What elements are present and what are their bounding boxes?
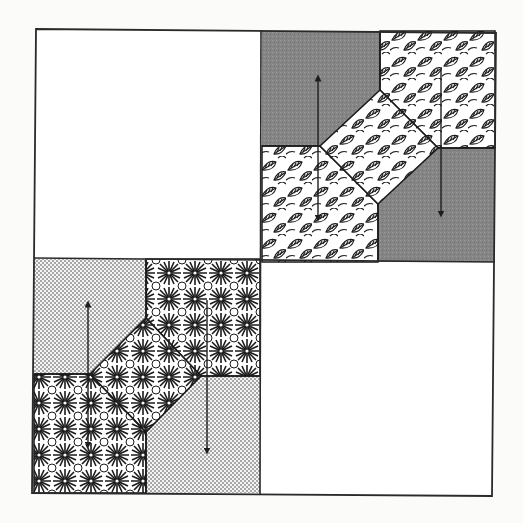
quadrant-bottom-right <box>261 263 492 495</box>
quilt-block-diagram <box>0 0 523 523</box>
quadrant-top-right <box>262 31 495 262</box>
divider-vertical <box>260 30 261 495</box>
quadrant-top-left <box>36 30 262 258</box>
quadrant-bottom-left <box>34 259 260 493</box>
